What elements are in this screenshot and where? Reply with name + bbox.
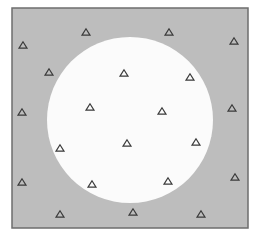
inscribed-circle xyxy=(47,37,213,203)
figure-canvas xyxy=(0,0,256,237)
